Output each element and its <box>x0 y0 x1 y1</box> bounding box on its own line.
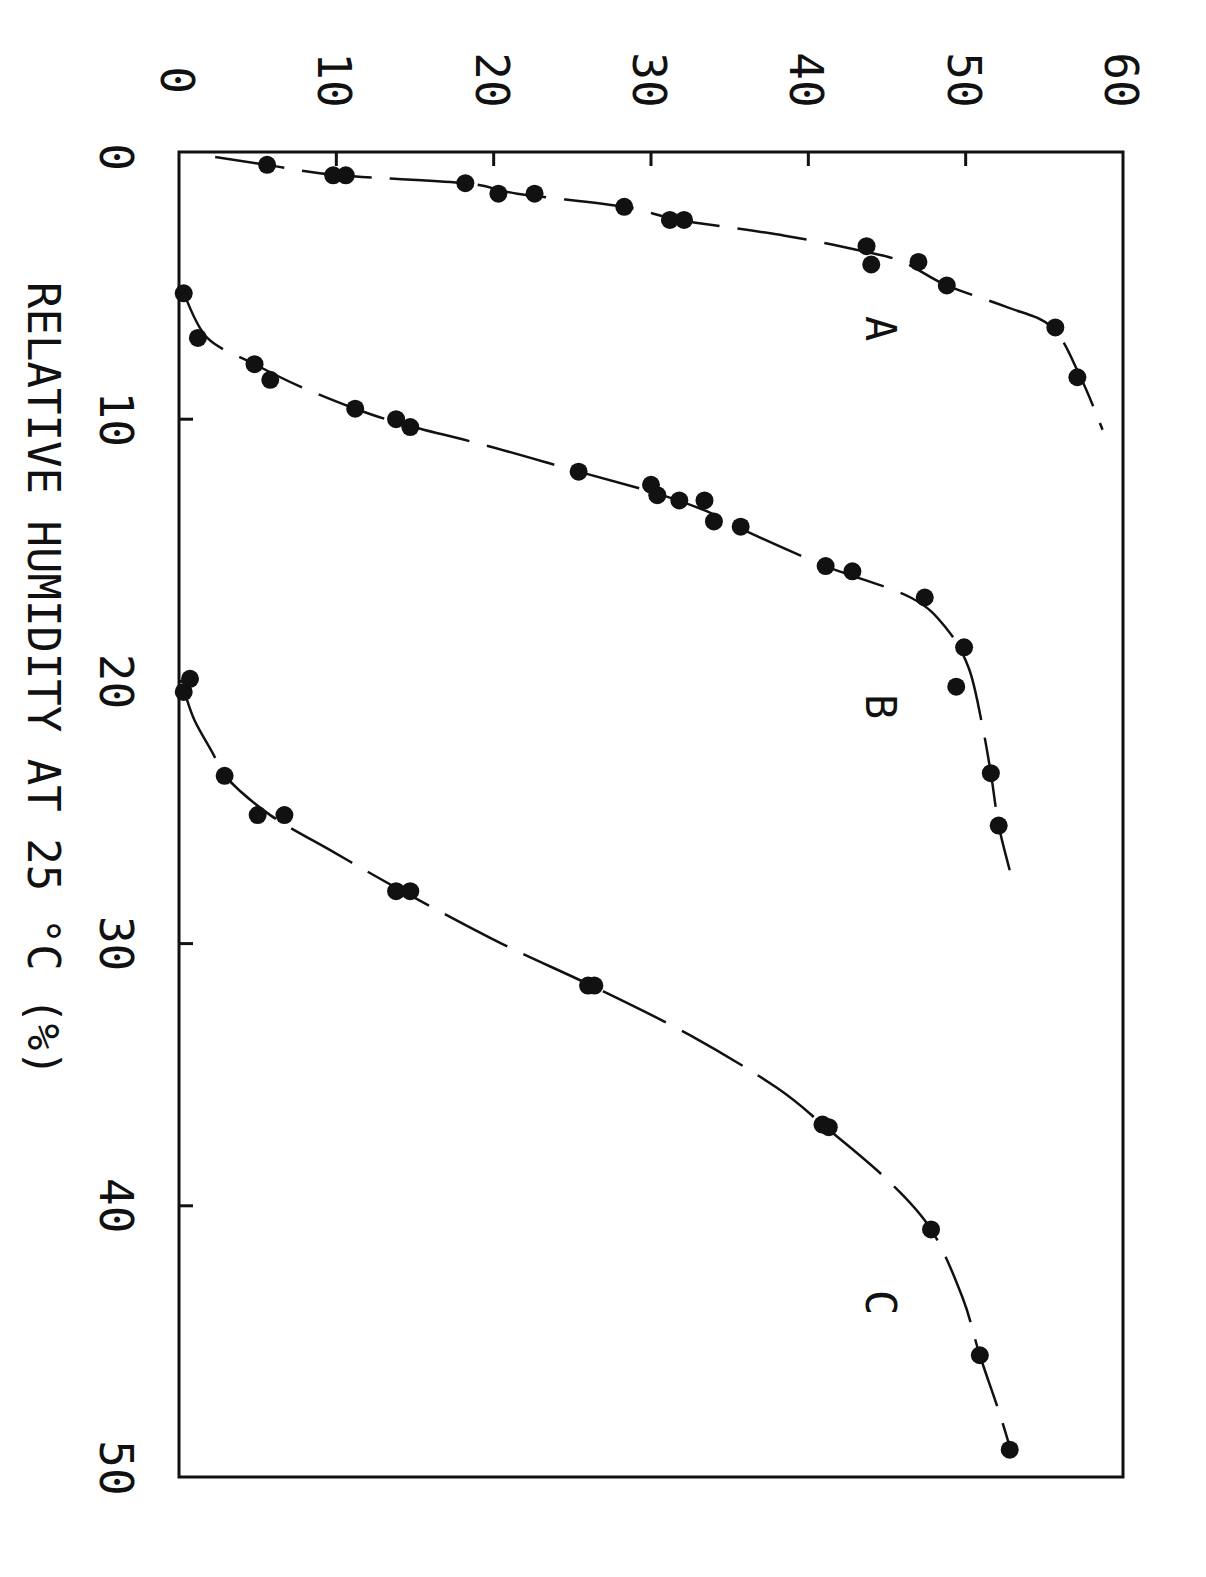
data-point-b <box>670 491 688 509</box>
value-tick-label: 50 <box>937 52 991 107</box>
curve-a <box>215 157 1102 430</box>
rh-tick-label: 0 <box>89 143 143 171</box>
data-point-a <box>909 253 927 271</box>
rh-tick-label: 40 <box>89 1178 143 1233</box>
data-point-b <box>189 329 207 347</box>
chart-canvas: 0102030405060 01020304050 RELATIVE HUMID… <box>0 0 1206 1577</box>
rh-tick-label: 50 <box>89 1440 143 1495</box>
data-point-c <box>922 1220 940 1238</box>
data-point-a <box>675 211 693 229</box>
data-point-b <box>990 817 1008 835</box>
data-point-b <box>570 463 588 481</box>
data-point-b <box>175 284 193 302</box>
data-point-a <box>258 156 276 174</box>
data-point-c <box>971 1346 989 1364</box>
data-point-c <box>1001 1441 1019 1459</box>
curve-label-c: C <box>856 1290 905 1315</box>
value-tick-label: 0 <box>150 66 204 94</box>
data-point-a <box>1068 368 1086 386</box>
data-point-a <box>1046 318 1064 336</box>
rh-tick-label: 30 <box>89 916 143 971</box>
curve-b <box>184 293 1010 870</box>
value-tick-label: 40 <box>779 52 833 107</box>
data-point-b <box>648 486 666 504</box>
data-point-c <box>249 806 267 824</box>
data-point-c <box>820 1118 838 1136</box>
fitted-curves <box>184 157 1103 1458</box>
data-point-b <box>695 491 713 509</box>
data-point-c <box>216 767 234 785</box>
value-tick-label: 20 <box>465 52 519 107</box>
data-point-a <box>526 185 544 203</box>
data-point-b <box>401 418 419 436</box>
data-point-b <box>346 400 364 418</box>
data-point-b <box>261 371 279 389</box>
data-point-b <box>817 557 835 575</box>
rh-axis-ticks: 01020304050 <box>89 143 193 1496</box>
data-point-b <box>705 512 723 530</box>
data-point-a <box>862 256 880 274</box>
data-point-a <box>938 276 956 294</box>
data-point-b <box>843 562 861 580</box>
data-point-c <box>401 882 419 900</box>
curve-c <box>185 695 1013 1458</box>
data-point-b <box>955 638 973 656</box>
data-point-a <box>615 198 633 216</box>
data-point-c <box>275 806 293 824</box>
value-tick-label: 60 <box>1094 52 1148 107</box>
data-point-b <box>916 588 934 606</box>
rh-axis-title: RELATIVE HUMIDITY AT 25 °C (%) <box>18 282 69 1077</box>
curve-label-b: B <box>856 694 905 719</box>
plot-frame <box>179 152 1123 1477</box>
data-point-b <box>947 678 965 696</box>
data-point-c <box>175 683 193 701</box>
rh-tick-label: 10 <box>89 392 143 447</box>
data-point-a <box>337 166 355 184</box>
data-point-a <box>858 237 876 255</box>
value-axis-ticks: 0102030405060 <box>150 52 1148 166</box>
data-point-c <box>585 977 603 995</box>
data-point-a <box>456 174 474 192</box>
curve-label-a: A <box>856 316 905 341</box>
data-point-a <box>489 185 507 203</box>
data-point-b <box>732 518 750 536</box>
data-point-b <box>246 355 264 373</box>
value-tick-label: 10 <box>307 52 361 107</box>
value-tick-label: 30 <box>622 52 676 107</box>
rh-tick-label: 20 <box>89 654 143 709</box>
data-point-b <box>982 764 1000 782</box>
